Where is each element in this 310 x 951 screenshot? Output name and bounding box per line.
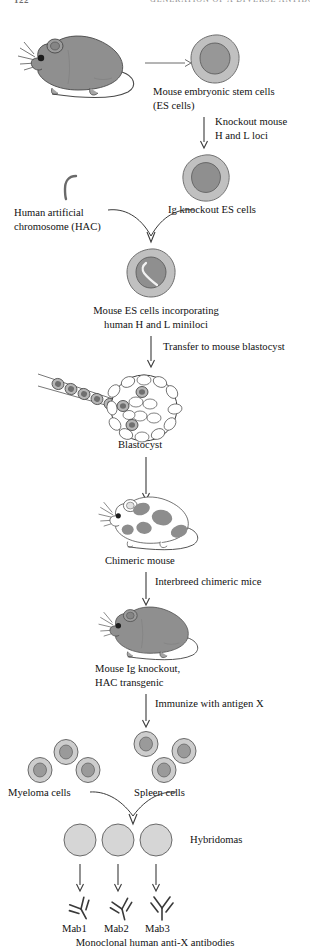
- mouse-illustration-transgenic: [90, 600, 210, 662]
- arrow-hybridoma-1-to-mab1: [75, 864, 85, 892]
- antibody-glyph-mab2: [107, 896, 137, 922]
- label-hybridomas: Hybridomas: [190, 833, 242, 847]
- label-blastocyst: Blastocyst: [118, 438, 162, 452]
- arrow-label-knockout: Knockout mouse H and L loci: [215, 115, 287, 142]
- hybridoma-cells: [63, 822, 173, 858]
- spleen-cells-cluster: [128, 730, 208, 786]
- arrow-knockout: [199, 117, 209, 149]
- figure-caption: Monoclonal human anti-X antibodies: [10, 936, 300, 950]
- label-es-cells: Mouse embryonic stem cells (ES cells): [153, 85, 275, 112]
- label-es-cells-with-miniloci: Mouse ES cells incorporating human H and…: [66, 304, 246, 331]
- arrow-label-interbreed: Interbreed chimeric mice: [155, 575, 261, 589]
- label-chimeric-mouse: Chimeric mouse: [105, 554, 175, 568]
- label-mab3: Mab3: [145, 922, 170, 936]
- mouse-illustration-chimeric: [90, 490, 210, 552]
- arrow-mouse-to-es-cell: [145, 58, 193, 68]
- arrow-label-immunize: Immunize with antigen X: [155, 697, 264, 711]
- antibody-glyph-mab3: [146, 894, 176, 922]
- label-mab1: Mab1: [62, 922, 87, 936]
- human-artificial-chromosome-glyph: [58, 172, 84, 202]
- ig-knockout-es-cell: [180, 152, 232, 204]
- arrow-hybridoma-2-to-mab2: [113, 864, 123, 892]
- arrow-immunize: [141, 694, 151, 728]
- mouse-illustration-wildtype: [8, 28, 148, 100]
- arrow-hybridoma-3-to-mab3: [151, 864, 161, 892]
- es-cell: [188, 32, 242, 86]
- running-header-title: GENERATION OF A DIVERSE ANTIBODY REPERTO…: [150, 0, 310, 4]
- myeloma-cells-cluster: [26, 740, 112, 792]
- label-mab2: Mab2: [104, 922, 129, 936]
- arrow-label-transfer-blastocyst: Transfer to mouse blastocyst: [163, 340, 285, 354]
- blastocyst-injection: [36, 368, 188, 443]
- label-myeloma-cells: Myeloma cells: [8, 786, 71, 800]
- label-hac: Human artificial chromosome (HAC): [14, 206, 101, 233]
- figure-page: 122 GENERATION OF A DIVERSE ANTIBODY REP…: [0, 0, 310, 951]
- antibody-glyph-mab1: [66, 896, 96, 922]
- arrow-transfer-to-blastocyst: [146, 336, 156, 368]
- arrow-hac-merge: [106, 202, 196, 248]
- es-cell-with-hac: [124, 246, 178, 300]
- page-number: 122: [14, 0, 29, 5]
- label-transgenic-mouse: Mouse Ig knockout, HAC transgenic: [95, 662, 180, 689]
